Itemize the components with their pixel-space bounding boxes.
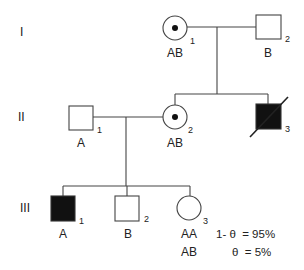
- male-symbol: [115, 196, 139, 221]
- individual-II2: 2 AB: [163, 105, 193, 150]
- generation-label-2: II: [18, 110, 25, 124]
- carrier-dot-icon: [172, 114, 178, 120]
- individual-number: 2: [144, 214, 149, 224]
- individual-II3: 3: [250, 97, 290, 137]
- individual-number: 1: [79, 216, 84, 226]
- generation-label-1: I: [20, 25, 23, 39]
- male-symbol: [256, 15, 281, 39]
- genotype-label: AB: [167, 46, 183, 60]
- pedigree-diagram: I II III 1 AB 2 B 1 A: [0, 0, 304, 270]
- carrier-dot-icon: [172, 25, 178, 31]
- individual-I2: 2 B: [256, 15, 290, 60]
- probability-ab: θ = 5%: [232, 246, 271, 258]
- male-symbol: [69, 106, 93, 130]
- probability-aa: 1- θ = 95%: [216, 228, 275, 240]
- individual-number: 1: [190, 36, 195, 46]
- individual-number: 3: [285, 124, 290, 134]
- female-symbol: [177, 196, 201, 220]
- genotype-label-ab: AB: [181, 245, 197, 259]
- individual-III3: 3 AA AB: [177, 196, 208, 259]
- individual-number: 3: [203, 216, 208, 226]
- genotype-label: A: [77, 136, 85, 150]
- individual-III2: 2 B: [115, 196, 149, 241]
- individual-number: 2: [285, 34, 290, 44]
- individual-III1: 1 A: [51, 196, 84, 241]
- genotype-label: AB: [167, 136, 183, 150]
- individual-number: 1: [97, 125, 102, 135]
- genotype-label: A: [59, 227, 67, 241]
- genotype-label: B: [124, 227, 132, 241]
- individual-I1: 1 AB: [163, 16, 195, 60]
- generation-label-3: III: [20, 201, 30, 215]
- individual-II1: 1 A: [69, 106, 102, 150]
- genotype-label-aa: AA: [181, 227, 197, 241]
- affected-male-symbol: [51, 196, 75, 221]
- individual-number: 2: [188, 125, 193, 135]
- genotype-label: B: [264, 46, 272, 60]
